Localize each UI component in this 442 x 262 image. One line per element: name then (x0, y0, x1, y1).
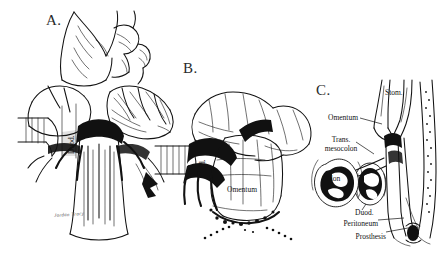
panel-c-label-trans-mesocolon: Trans. mesocolon (310, 136, 372, 153)
panel-c-label-peritoneum: Peritoneum (306, 220, 378, 229)
panel-c-label-omentum: Omentum (302, 114, 358, 123)
panel-c-label-stomach: Stom. (385, 89, 403, 98)
panel-c: C. (300, 78, 442, 248)
panel-b: B. (155, 60, 315, 245)
panel-a-label-duodenum: Duod. (68, 135, 77, 154)
anatomical-figure: A. (0, 0, 442, 262)
panel-b-drawing (155, 60, 315, 245)
panel-b-label-duodenum: Duod. (199, 159, 208, 178)
panel-b-label-omentum: Omentum (227, 186, 257, 195)
panel-c-label-prosthesis: Prosthesis (314, 233, 386, 242)
trans-mesocolon-line2: mesocolon (325, 144, 358, 153)
panel-c-label-duodenum: Duod. (355, 209, 374, 218)
panel-c-label-colon: Colon (322, 175, 340, 184)
